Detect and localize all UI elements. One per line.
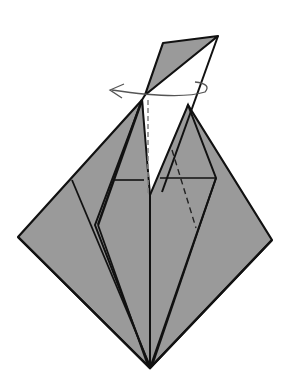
flap-left-edge (142, 95, 145, 100)
origami-diagram (0, 0, 287, 390)
